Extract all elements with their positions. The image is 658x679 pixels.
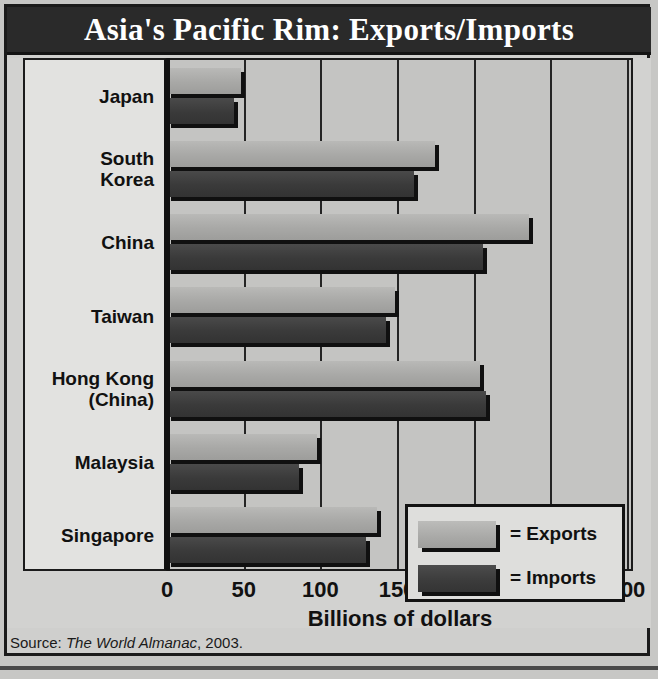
legend-swatch-exports <box>418 521 496 548</box>
legend-swatch-imports <box>418 565 496 592</box>
chart-figure: Asia's Pacific Rim: Exports/Imports Paci… <box>0 0 658 679</box>
category-label-line1-5: Malaysia <box>75 452 154 473</box>
bottom-rule <box>0 666 658 670</box>
category-label-3: Taiwan <box>91 306 154 327</box>
category-label-line1-0: Japan <box>99 86 154 107</box>
x-axis-title: Billions of dollars <box>167 606 633 632</box>
bar-group-taiwan <box>167 280 631 353</box>
bar-imports-4 <box>167 391 486 417</box>
chart-title: Asia's Pacific Rim: Exports/Imports <box>7 7 651 55</box>
x-tick-label-100: 100 <box>302 577 339 603</box>
category-label-5: Malaysia <box>75 452 154 473</box>
category-label-2: China <box>101 232 154 253</box>
category-label-line1-2: China <box>101 232 154 253</box>
category-label-line2-1: Korea <box>100 169 154 190</box>
bars-layer <box>167 60 631 569</box>
bar-imports-3 <box>167 317 386 343</box>
category-label-line1-4: Hong Kong <box>52 368 154 389</box>
bar-imports-2 <box>167 244 483 270</box>
category-label-4: Hong Kong(China) <box>52 368 154 410</box>
y-axis-line <box>167 58 170 571</box>
category-label-line2-4: (China) <box>52 389 154 410</box>
legend-item-imports: = Imports <box>418 560 612 596</box>
bar-group-japan <box>167 60 631 133</box>
category-label-panel: JapanSouthKoreaChinaTaiwanHong Kong(Chin… <box>23 58 167 571</box>
bar-imports-1 <box>167 171 414 197</box>
legend-label-imports: = Imports <box>510 567 596 589</box>
x-tick-label-0: 0 <box>161 577 173 603</box>
bar-imports-6 <box>167 537 366 563</box>
category-label-1: SouthKorea <box>100 148 154 190</box>
category-label-0: Japan <box>99 86 154 107</box>
source-note: Source: The World Almanac, 2003. <box>10 634 243 651</box>
category-label-6: Singapore <box>61 525 154 546</box>
source-prefix: Source: <box>10 634 66 651</box>
x-tick-label-50: 50 <box>231 577 255 603</box>
category-label-line1-3: Taiwan <box>91 306 154 327</box>
bar-group-south-korea <box>167 133 631 206</box>
plot-box <box>167 58 633 571</box>
legend-item-exports: = Exports <box>418 516 612 552</box>
source-publication: The World Almanac <box>66 634 197 651</box>
category-label-line1-6: Singapore <box>61 525 154 546</box>
bar-group-hong-kong-china <box>167 353 631 426</box>
source-suffix: , 2003. <box>197 634 243 651</box>
bar-group-china <box>167 207 631 280</box>
bar-imports-0 <box>167 98 234 124</box>
category-label-line1-1: South <box>100 148 154 169</box>
legend-label-exports: = Exports <box>510 523 597 545</box>
bar-imports-5 <box>167 464 299 490</box>
bar-exports-3 <box>167 287 395 313</box>
bar-exports-6 <box>167 507 377 533</box>
bar-exports-1 <box>167 141 435 167</box>
bar-group-malaysia <box>167 426 631 499</box>
legend: = Exports = Imports <box>405 504 625 602</box>
chart-plot-area: Pacific Rim countries JapanSouthKoreaChi… <box>7 58 651 628</box>
bar-exports-4 <box>167 361 480 387</box>
bar-exports-0 <box>167 68 241 94</box>
bar-exports-5 <box>167 434 317 460</box>
bar-exports-2 <box>167 214 529 240</box>
